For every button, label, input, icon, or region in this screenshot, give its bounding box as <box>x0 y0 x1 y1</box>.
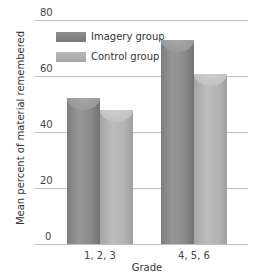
gridline-80 <box>35 20 248 21</box>
bar-control-grade-4-5-6 <box>194 74 227 244</box>
bar-imagery-grade-1-2-3 <box>67 98 100 244</box>
y-axis-title: Mean percent of material remembered <box>15 31 26 225</box>
y-tick-60: 60 <box>40 63 53 74</box>
legend-swatch-imagery <box>56 32 86 42</box>
y-tick-80: 80 <box>40 7 53 18</box>
bar-cap <box>100 110 133 123</box>
bar-cap <box>67 98 100 111</box>
bar-control-grade-1-2-3 <box>100 110 133 244</box>
legend-label-imagery: Imagery group <box>91 31 165 42</box>
bar-cap <box>194 74 227 87</box>
bar-imagery-grade-4-5-6 <box>161 40 194 244</box>
y-tick-40: 40 <box>40 119 53 130</box>
bar-cap <box>161 40 194 53</box>
bar-chart: 80 60 40 20 0 Mean percent of material r… <box>0 0 256 279</box>
x-category-1-2-3: 1, 2, 3 <box>84 250 116 261</box>
x-axis-title: Grade <box>132 262 163 273</box>
y-tick-20: 20 <box>40 175 53 186</box>
legend-swatch-control <box>56 52 86 62</box>
x-category-4-5-6: 4, 5, 6 <box>178 250 210 261</box>
x-axis-baseline <box>35 244 248 245</box>
y-tick-0: 0 <box>45 231 51 242</box>
legend-label-control: Control group <box>91 51 159 62</box>
